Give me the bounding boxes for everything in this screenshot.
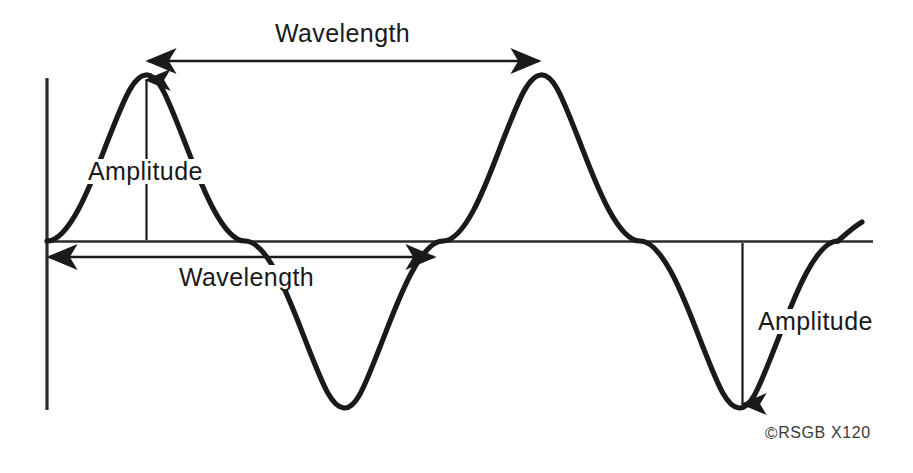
copyright-icon: ©: [765, 424, 778, 443]
copyright-credit: ©RSGB X120: [765, 424, 871, 444]
wave-diagram-canvas: [0, 0, 913, 473]
wave-diagram: Wavelength Wavelength Amplitude Amplitud…: [0, 0, 913, 473]
sine-wave-tail: [838, 222, 862, 241]
copyright-text: RSGB X120: [778, 424, 871, 441]
amplitude-right-label: Amplitude: [754, 309, 877, 334]
wavelength-bottom-label: Wavelength: [176, 265, 317, 290]
amplitude-left-label: Amplitude: [84, 159, 207, 184]
wavelength-top-label: Wavelength: [272, 21, 413, 46]
